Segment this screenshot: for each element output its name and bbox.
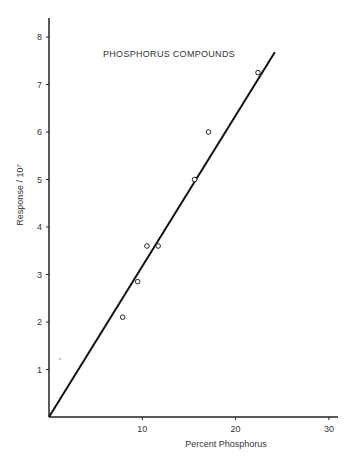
y-ticks: 12345678 — [37, 32, 49, 375]
chart-title: PHOSPHORUS COMPOUNDS — [103, 49, 235, 59]
y-tick-label: 4 — [37, 222, 42, 232]
data-point — [156, 244, 161, 249]
y-tick-label: 7 — [37, 80, 42, 90]
data-point — [192, 177, 197, 182]
y-tick-label: 2 — [37, 317, 42, 327]
data-point — [135, 279, 140, 284]
y-axis-title: Response / 10⁷ — [15, 164, 25, 225]
y-tick-label: 5 — [37, 175, 42, 185]
fit-line — [49, 52, 275, 417]
x-ticks: 102030 — [137, 417, 334, 434]
data-point — [145, 244, 150, 249]
y-tick-label: 8 — [37, 32, 42, 42]
x-axis-title: Percent Phosphorus — [185, 439, 267, 449]
data-point — [206, 130, 211, 135]
data-point — [256, 70, 261, 75]
y-tick-label: 1 — [37, 365, 42, 375]
y-tick-label: 6 — [37, 127, 42, 137]
chart: 12345678 102030 PHOSPHORUS COMPOUNDS Per… — [0, 0, 352, 460]
regression-line — [49, 52, 275, 417]
x-tick-label: 20 — [231, 424, 241, 434]
x-tick-label: 30 — [324, 424, 334, 434]
axes — [49, 18, 338, 417]
data-point — [120, 315, 125, 320]
speck — [59, 358, 60, 359]
y-tick-label: 3 — [37, 270, 42, 280]
x-tick-label: 10 — [137, 424, 147, 434]
